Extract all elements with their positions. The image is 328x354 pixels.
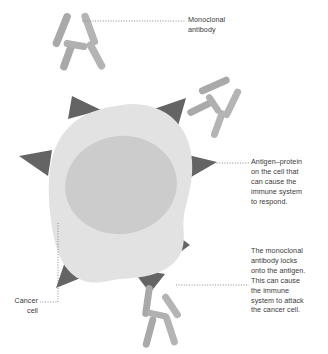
monoclonal-antibody-icon xyxy=(179,67,254,141)
antibody-arm xyxy=(198,76,231,96)
antibody-stem xyxy=(210,109,226,139)
monoclonal-antibody-diagram: Monoclonal antibody Antigen–protein on t… xyxy=(0,0,328,354)
label-antibody-locks-onto-antigen: The monoclonal antibody locks onto the a… xyxy=(251,246,327,315)
antibody-stem xyxy=(142,316,157,349)
label-monoclonal-antibody: Monoclonal antibody xyxy=(188,15,308,35)
antigen-spike-icon xyxy=(19,150,52,176)
antibody-arm xyxy=(80,12,99,47)
monoclonal-antibody-bound-icon xyxy=(142,285,182,349)
label-cancer-cell: Cancer cell xyxy=(2,296,38,316)
label-antigen-protein: Antigen–protein on the cell that can cau… xyxy=(251,157,327,207)
